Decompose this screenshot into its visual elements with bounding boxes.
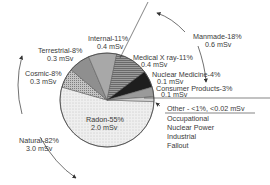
label-medical-dose: 0.4 mSv [141, 60, 168, 69]
other-item-industrial: Industrial [167, 132, 197, 141]
other-item-nuclear-power: Nuclear Power [167, 123, 215, 132]
other-item-fallout: Fallout [167, 141, 189, 150]
manmade-arrow-up [157, 13, 185, 32]
internal-leader [120, 2, 148, 58]
natural-arrow-up [18, 56, 22, 114]
label-terrestrial-dose: 0.3 mSv [47, 54, 74, 63]
label-cosmic-dose: 0.3 mSv [30, 77, 57, 86]
pie-slices [60, 53, 154, 147]
label-manmade-dose: 0.6 mSv [205, 40, 232, 49]
other-arrow [156, 103, 160, 106]
pie-chart: Internal-11% 0.4 mSv Terrestrial-8% 0.3 … [0, 0, 270, 185]
label-internal-dose: 0.4 mSv [97, 42, 124, 51]
label-radon-dose: 2.0 mSv [91, 123, 118, 132]
label-other: Other - <1%, <0.02 mSv [167, 104, 245, 113]
label-consumer-products-dose: 0.1 mSv [161, 90, 188, 99]
label-natural-dose: 3.0 mSv [26, 144, 53, 153]
other-item-occupational: Occupational [167, 114, 209, 123]
